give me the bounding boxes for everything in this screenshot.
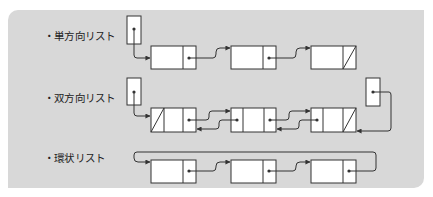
- linked-list-diagram: [0, 0, 433, 197]
- doubly-node-3-null: [311, 108, 356, 132]
- doubly-node-2: [231, 108, 276, 132]
- singly-node-3-null: [311, 46, 356, 69]
- singly-linked-list: [127, 16, 356, 69]
- circular-linked-list: [134, 152, 376, 183]
- doubly-linked-list: [127, 78, 391, 132]
